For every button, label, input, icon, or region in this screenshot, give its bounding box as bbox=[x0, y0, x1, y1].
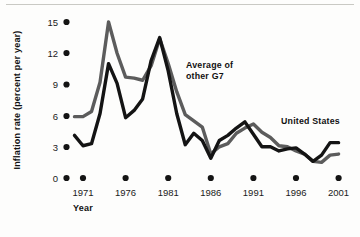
x-tick-label-2001: 2001 bbox=[328, 187, 349, 198]
series-annotation-g7-line2: other G7 bbox=[186, 71, 224, 81]
y-tick-label-6: 6 bbox=[53, 111, 58, 122]
x-tick-label-1986: 1986 bbox=[200, 187, 221, 198]
y-tick-label-3: 3 bbox=[53, 142, 58, 153]
inflation-chart-figure: 15 12 9 6 3 0 1971 1976 1981 1986 1991 1… bbox=[0, 0, 360, 237]
y-tick-label-12: 12 bbox=[47, 48, 58, 59]
series-line-average-other-g7 bbox=[74, 22, 338, 162]
y-tick-label-15: 15 bbox=[47, 17, 58, 28]
chart-plot-area: 15 12 9 6 3 0 1971 1976 1981 1986 1991 1… bbox=[0, 0, 360, 237]
series-annotation-united-states: United States bbox=[281, 116, 340, 126]
y-tick-label-9: 9 bbox=[53, 79, 58, 90]
x-axis-tick-dots bbox=[80, 175, 342, 181]
y-axis-title: Inflation rate (percent per year) bbox=[12, 30, 22, 169]
x-tick-label-1971: 1971 bbox=[72, 187, 93, 198]
x-tick-label-1996: 1996 bbox=[285, 187, 306, 198]
x-tick-label-1991: 1991 bbox=[243, 187, 264, 198]
x-tick-label-1981: 1981 bbox=[158, 187, 179, 198]
y-tick-label-0: 0 bbox=[53, 173, 58, 184]
y-axis-tick-dots bbox=[63, 19, 69, 181]
x-axis-title: Year bbox=[73, 203, 93, 213]
x-tick-label-1976: 1976 bbox=[115, 187, 136, 198]
series-annotation-g7-line1: Average of bbox=[186, 60, 233, 70]
